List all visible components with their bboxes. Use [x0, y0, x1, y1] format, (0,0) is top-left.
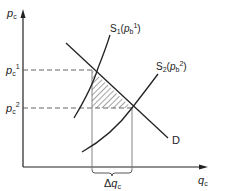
supply-curve-1-label: S1(pb1)	[110, 24, 141, 34]
s1-arg-sup: 1	[133, 22, 137, 29]
demand-curve	[66, 43, 168, 138]
price-label-2: pc2	[6, 103, 20, 114]
price-label-2-sub: c	[12, 108, 16, 115]
y-axis-label: pc	[7, 8, 17, 19]
s1-sub: 1	[117, 28, 121, 35]
delta-brace	[92, 170, 132, 176]
supply-curve-2-label: S2(pb2)	[156, 62, 187, 72]
hatched-area	[92, 70, 132, 108]
delta-quantity-label: Δqc	[104, 178, 121, 189]
s1-base: S	[110, 23, 117, 34]
demand-label-text: D	[172, 134, 180, 146]
supply-demand-diagram: pc qc pc1 pc2 S1(pb1) S2(pb2) D Δqc	[0, 0, 225, 191]
s1-arg-sub: b	[129, 28, 133, 35]
x-axis-label: qc	[198, 175, 208, 186]
y-axis-arrow-icon	[21, 9, 26, 18]
s2-arg-sub: b	[175, 66, 179, 73]
x-axis-label-sub: c	[204, 180, 208, 187]
x-axis-arrow-icon	[199, 165, 208, 170]
price-label-2-sup: 2	[16, 101, 20, 108]
s2-arg-sup: 2	[179, 60, 183, 67]
delta-sub: c	[117, 183, 121, 190]
y-axis-label-sub: c	[13, 13, 17, 20]
s2-sub: 2	[163, 66, 167, 73]
demand-curve-label: D	[172, 135, 180, 146]
price-label-1-sub: c	[12, 70, 16, 77]
price-label-1: pc1	[6, 65, 20, 76]
price-label-1-sup: 1	[16, 63, 20, 70]
s2-base: S	[156, 61, 163, 72]
